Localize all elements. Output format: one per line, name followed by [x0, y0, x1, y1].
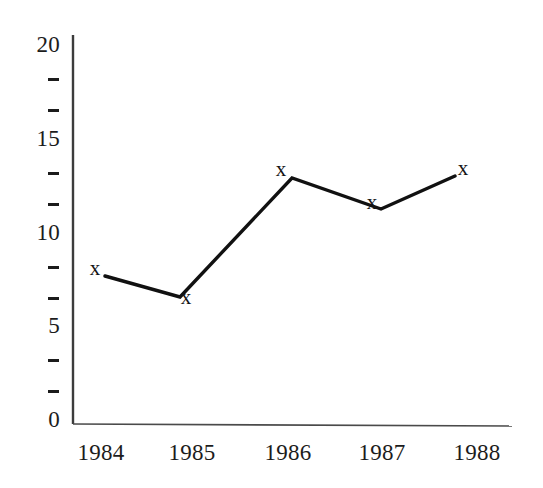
y-axis-minor-tick: [16, 254, 60, 277]
tick-dash-icon: [48, 172, 59, 175]
plot-area: [0, 0, 543, 488]
data-point-marker-1988: x: [453, 158, 473, 179]
x-axis-label-1987: 1987: [337, 440, 427, 465]
tick-dash-icon: [48, 359, 59, 362]
tick-dash-icon: [48, 78, 59, 81]
y-axis-minor-tick: [16, 66, 60, 89]
data-point-marker-1986: x: [271, 159, 291, 180]
tick-dash-icon: [48, 109, 59, 112]
y-axis-label-5: 5: [16, 314, 60, 337]
data-point-marker-1987: x: [362, 192, 382, 213]
y-axis-label-15: 15: [16, 127, 60, 150]
y-axis-label-0: 0: [16, 408, 60, 431]
tick-dash-icon: [48, 266, 59, 269]
y-axis-minor-tick: [16, 347, 60, 370]
data-point-marker-1985: x: [176, 287, 196, 308]
x-axis-label-1984: 1984: [56, 440, 146, 465]
y-axis-minor-tick: [16, 285, 60, 308]
tick-dash-icon: [48, 390, 59, 393]
tick-dash-icon: [48, 203, 59, 206]
y-axis-label-20: 20: [16, 33, 60, 56]
line-chart: 20 15 10 5 0 x x x x x 1984 1985 1986 19…: [0, 0, 543, 488]
y-axis-minor-tick: [16, 191, 60, 214]
tick-dash-icon: [48, 297, 59, 300]
y-axis-minor-tick: [16, 378, 60, 401]
y-axis-minor-tick: [16, 97, 60, 120]
data-line-series-1: [105, 176, 455, 297]
y-axis-minor-tick: [16, 160, 60, 183]
data-point-marker-1984: x: [85, 258, 105, 279]
y-axis-label-10: 10: [16, 221, 60, 244]
x-axis-label-1986: 1986: [243, 440, 333, 465]
x-axis-line: [73, 424, 512, 426]
x-axis-label-1985: 1985: [147, 440, 237, 465]
x-axis-label-1988: 1988: [432, 440, 522, 465]
